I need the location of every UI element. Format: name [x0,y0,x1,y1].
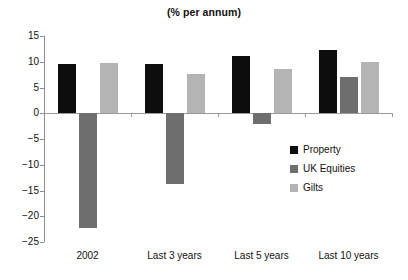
y-axis-tick-mark [40,216,44,217]
y-axis-tick-label: 5 [33,83,39,93]
legend-label: Gilts [303,183,323,193]
bar-property-last-3-years [145,64,163,113]
category-separator-tick [305,113,306,117]
legend-swatch-icon [290,146,298,154]
y-axis-tick-label: −10 [22,160,39,170]
y-axis-tick-mark [40,165,44,166]
bar-property-last-10-years [319,50,337,113]
bar-uk-equities-last-5-years [253,113,271,124]
y-axis-tick-mark [40,242,44,243]
y-axis-tick-label: −15 [22,186,39,196]
y-axis-tick-label: −25 [22,237,39,247]
y-axis-tick-mark [40,88,44,89]
bar-uk-equities-last-10-years [340,77,358,113]
chart-title: (% per annum) [0,6,408,18]
bar-uk-equities-last-3-years [166,113,184,184]
bar-chart: (% per annum) 151050−5−10−15−20−25 2002L… [0,0,408,280]
legend-item-property[interactable]: Property [290,140,400,159]
x-axis-label-2: Last 5 years [234,250,288,261]
legend-item-gilts[interactable]: Gilts [290,178,400,197]
bar-property-last-5-years [232,56,250,114]
x-axis-label-0: 2002 [76,250,98,261]
y-axis-tick-mark [40,191,44,192]
x-axis-label-3: Last 10 years [318,250,378,261]
legend-label: Property [303,145,341,155]
x-axis-label-1: Last 3 years [147,250,201,261]
legend: PropertyUK EquitiesGilts [290,140,400,197]
y-axis-tick-label: −5 [28,134,39,144]
y-axis-tick-mark [40,139,44,140]
category-separator-tick [392,113,393,117]
plot-area: 151050−5−10−15−20−25 [44,36,392,242]
bar-gilts-last-5-years [274,69,292,113]
y-axis-tick-mark [40,113,44,114]
y-axis-tick-label: 10 [28,57,39,67]
legend-swatch-icon [290,165,298,173]
y-axis-line [44,36,45,242]
y-axis-tick-label: 0 [33,108,39,118]
legend-item-uk-equities[interactable]: UK Equities [290,159,400,178]
category-separator-tick [131,113,132,117]
bar-property-2002 [58,64,76,113]
y-axis-tick-mark [40,62,44,63]
legend-swatch-icon [290,184,298,192]
y-axis-tick-label: 15 [28,31,39,41]
bar-uk-equities-2002 [79,113,97,227]
bar-gilts-2002 [100,63,118,113]
legend-label: UK Equities [303,164,355,174]
category-separator-tick [218,113,219,117]
bar-gilts-last-10-years [361,62,379,114]
y-axis-tick-label: −20 [22,211,39,221]
bar-gilts-last-3-years [187,74,205,114]
y-axis-tick-mark [40,36,44,37]
